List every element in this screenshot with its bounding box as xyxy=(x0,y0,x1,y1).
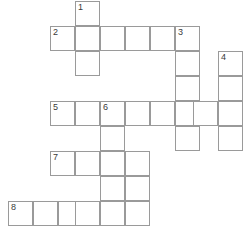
crossword-grid: 12345678 xyxy=(0,0,252,230)
crossword-cell-numbered-5[interactable]: 5 xyxy=(50,101,75,126)
cell-letter xyxy=(194,102,217,125)
crossword-cell[interactable] xyxy=(175,51,200,76)
cell-letter xyxy=(219,77,242,100)
cell-letter xyxy=(76,202,99,225)
cell-letter xyxy=(76,152,99,175)
cell-letter xyxy=(51,27,74,50)
crossword-cell[interactable] xyxy=(75,151,100,176)
crossword-cell[interactable] xyxy=(100,201,125,226)
crossword-cell[interactable] xyxy=(100,26,125,51)
crossword-cell-numbered-6[interactable]: 6 xyxy=(100,101,125,126)
cell-letter xyxy=(219,102,242,125)
crossword-cell-numbered-2[interactable]: 2 xyxy=(50,26,75,51)
cell-letter xyxy=(176,27,199,50)
crossword-cell[interactable] xyxy=(100,126,125,151)
cell-letter xyxy=(51,152,74,175)
crossword-cell[interactable] xyxy=(125,176,150,201)
crossword-cell[interactable] xyxy=(100,151,125,176)
crossword-cell[interactable] xyxy=(125,101,150,126)
crossword-cell[interactable] xyxy=(193,101,218,126)
cell-letter xyxy=(151,102,174,125)
cell-letter xyxy=(76,27,99,50)
cell-letter xyxy=(101,127,124,150)
cell-letter xyxy=(219,52,242,75)
crossword-cell[interactable] xyxy=(125,151,150,176)
cell-letter xyxy=(9,202,32,225)
cell-letter xyxy=(126,202,149,225)
crossword-cell-numbered-8[interactable]: 8 xyxy=(8,201,33,226)
cell-letter xyxy=(101,152,124,175)
crossword-cell[interactable] xyxy=(75,201,100,226)
crossword-cell[interactable] xyxy=(125,201,150,226)
crossword-cell[interactable] xyxy=(218,126,243,151)
crossword-cell-numbered-4[interactable]: 4 xyxy=(218,51,243,76)
crossword-cell[interactable] xyxy=(33,201,58,226)
crossword-cell[interactable] xyxy=(150,26,175,51)
crossword-cell[interactable] xyxy=(218,101,243,126)
crossword-cell-numbered-1[interactable]: 1 xyxy=(75,1,100,26)
cell-letter xyxy=(76,52,99,75)
crossword-cell[interactable] xyxy=(75,101,100,126)
crossword-cell[interactable] xyxy=(75,51,100,76)
cell-letter xyxy=(126,102,149,125)
crossword-cell[interactable] xyxy=(100,176,125,201)
crossword-cell-numbered-7[interactable]: 7 xyxy=(50,151,75,176)
cell-letter xyxy=(101,27,124,50)
cell-letter xyxy=(176,77,199,100)
crossword-cell[interactable] xyxy=(75,26,100,51)
crossword-cell[interactable] xyxy=(175,76,200,101)
cell-letter xyxy=(101,102,124,125)
cell-letter xyxy=(176,52,199,75)
cell-letter xyxy=(126,27,149,50)
cell-letter xyxy=(34,202,57,225)
crossword-cell[interactable] xyxy=(175,126,200,151)
cell-letter xyxy=(219,127,242,150)
cell-letter xyxy=(126,177,149,200)
cell-letter xyxy=(151,27,174,50)
crossword-cell[interactable] xyxy=(150,101,175,126)
cell-letter xyxy=(176,127,199,150)
crossword-cell[interactable] xyxy=(218,76,243,101)
cell-letter xyxy=(51,102,74,125)
cell-letter xyxy=(76,102,99,125)
crossword-cell[interactable] xyxy=(125,26,150,51)
cell-letter xyxy=(101,177,124,200)
crossword-cell-numbered-3[interactable]: 3 xyxy=(175,26,200,51)
cell-letter xyxy=(76,2,99,25)
cell-letter xyxy=(126,152,149,175)
cell-letter xyxy=(101,202,124,225)
